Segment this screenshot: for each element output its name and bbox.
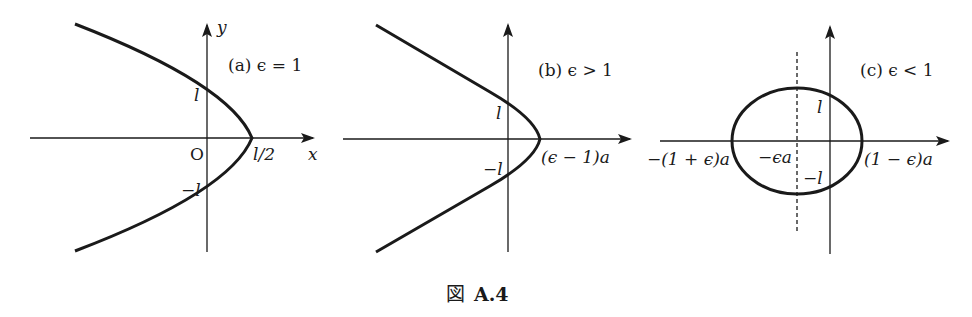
panel-c-ellipse: (c) ϵ < 1 l −(1 + ϵ)a −ϵa (1 − ϵ)a −l <box>647 27 948 254</box>
label-l: l <box>496 103 501 123</box>
y-axis-label: y <box>216 17 227 37</box>
caption-prefix: 図 <box>446 283 465 305</box>
panel-c-title: (c) ϵ < 1 <box>860 60 934 80</box>
conic-sections-figure: y x (a) ϵ = 1 l O l/2 −l (b) ϵ > 1 l (ϵ … <box>0 0 972 317</box>
x-axis-label: x <box>308 144 318 164</box>
label-vertex: l/2 <box>253 144 275 164</box>
origin-label: O <box>190 144 204 164</box>
panel-a-parabola: y x (a) ϵ = 1 l O l/2 −l <box>30 17 318 252</box>
label-l: l <box>817 97 822 117</box>
panel-b-title: (b) ϵ > 1 <box>538 60 613 80</box>
figure-caption: 図 A.4 <box>446 283 509 305</box>
label-left-vertex: −(1 + ϵ)a <box>647 149 730 169</box>
label-neg-l: −l <box>181 180 201 200</box>
label-center: −ϵa <box>758 147 792 167</box>
label-l: l <box>194 85 199 105</box>
label-right-vertex: (1 − ϵ)a <box>864 149 933 169</box>
label-neg-l: −l <box>483 159 503 179</box>
panel-a-title: (a) ϵ = 1 <box>228 55 302 75</box>
panel-b-hyperbola: (b) ϵ > 1 l (ϵ − 1)a −l <box>343 25 630 252</box>
label-neg-l: −l <box>803 168 823 188</box>
caption-number: A.4 <box>473 283 509 305</box>
label-vertex: (ϵ − 1)a <box>541 147 610 167</box>
